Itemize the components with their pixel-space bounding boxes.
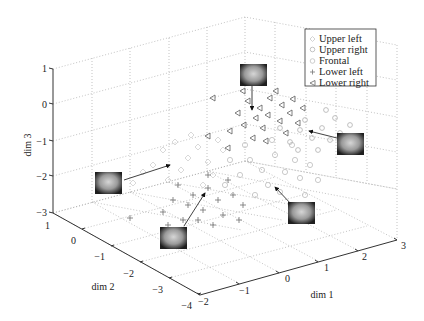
z-axis-label: dim 3 — [22, 133, 33, 156]
z-tick: −1 — [36, 136, 47, 147]
y-tick: −1 — [94, 251, 105, 262]
z-tick: −3 — [36, 207, 47, 218]
legend-label: Lower right — [319, 77, 369, 88]
y-axis-label: dim 2 — [91, 281, 114, 292]
series-frontal — [222, 137, 320, 197]
y-tick: 1 — [45, 220, 50, 231]
x-tick: 3 — [401, 240, 406, 251]
x-tick: 1 — [324, 262, 329, 273]
face-image-frontal — [288, 202, 315, 224]
y-tick: −4 — [181, 300, 192, 311]
y-tick: 0 — [71, 235, 76, 246]
series-upper-left — [130, 132, 226, 188]
face-image-upper-right — [337, 133, 364, 155]
x-tick: −1 — [239, 285, 250, 296]
x-tick: 2 — [362, 251, 367, 262]
x-tick-labels: −2 −1 0 1 2 3 — [198, 240, 406, 307]
legend: Upper left Upper right Frontal Lower lef… — [305, 29, 376, 88]
z-tick: −2 — [36, 171, 47, 182]
face-image-upper-left — [95, 172, 122, 194]
legend-item-upper-right: Upper right — [310, 44, 368, 55]
face-thumbnails — [95, 64, 364, 249]
legend-label: Upper right — [319, 44, 368, 55]
face-image-lower-left — [160, 227, 187, 249]
y-tick: −2 — [123, 268, 134, 279]
z-tick: 0 — [42, 99, 47, 110]
scatter-3d-plot: 1 0 −1 −2 −3 1 0 −1 −2 −3 −4 −2 −1 0 1 2… — [0, 0, 424, 321]
z-tick-labels: 1 0 −1 −2 −3 — [36, 63, 47, 218]
x-axis-label: dim 1 — [310, 289, 333, 300]
x-tick: −2 — [198, 296, 209, 307]
z-tick: 1 — [42, 63, 47, 74]
legend-label: Lower left — [319, 66, 363, 77]
y-tick: −3 — [152, 284, 163, 295]
face-image-lower-right — [240, 64, 267, 86]
x-tick: 0 — [285, 273, 290, 284]
legend-label: Frontal — [319, 55, 349, 66]
legend-item-lower-right: Lower right — [310, 77, 369, 88]
legend-label: Upper left — [319, 33, 362, 44]
